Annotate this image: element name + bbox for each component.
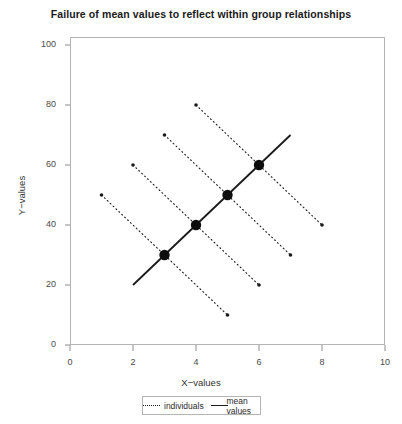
y-tick-label-0: 0 xyxy=(22,339,56,349)
y-axis-label: Y−values xyxy=(16,161,27,231)
dotted-line-icon xyxy=(143,403,160,409)
y-tick-label-80: 80 xyxy=(22,99,56,109)
x-tick-label-6: 6 xyxy=(244,357,274,367)
mean-point xyxy=(191,220,201,230)
legend-entry-individuals: individuals xyxy=(143,401,204,411)
solid-line-icon xyxy=(211,403,223,409)
x-tick-label-10: 10 xyxy=(370,357,400,367)
x-tick-label-4: 4 xyxy=(181,357,211,367)
mean-point xyxy=(222,190,232,200)
x-tick-label-2: 2 xyxy=(118,357,148,367)
chart-figure: Failure of mean values to reflect within… xyxy=(0,0,402,424)
mean-point xyxy=(159,250,169,260)
chart-legend: individuals mean values xyxy=(142,396,261,415)
y-tick-label-20: 20 xyxy=(22,279,56,289)
x-tick-label-0: 0 xyxy=(55,357,85,367)
legend-label-mean-values: mean values xyxy=(227,396,260,416)
y-tick-label-100: 100 xyxy=(22,39,56,49)
x-tick-label-8: 8 xyxy=(307,357,337,367)
x-axis-ticks xyxy=(70,345,385,351)
legend-label-individuals: individuals xyxy=(164,401,204,411)
mean-point xyxy=(254,160,264,170)
y-tick-label-40: 40 xyxy=(22,219,56,229)
y-axis-ticks xyxy=(65,45,70,345)
x-axis-label: X−values xyxy=(0,377,402,388)
legend-entry-mean-values: mean values xyxy=(211,396,260,416)
y-tick-label-60: 60 xyxy=(22,159,56,169)
mean-values-line xyxy=(133,135,291,285)
